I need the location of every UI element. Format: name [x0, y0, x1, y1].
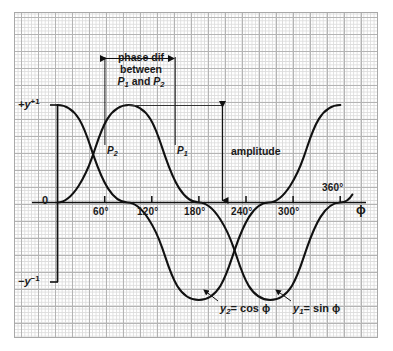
x-tick-label-300: 300°	[278, 206, 299, 217]
cosine-curve-label: y2= cos ϕ	[220, 302, 270, 317]
phase-dif-label-line2: between	[114, 64, 168, 76]
plot-overlay	[0, 0, 393, 351]
y-axis-negative-label: −y−1	[18, 275, 40, 287]
point-label-p2: P2	[107, 145, 118, 158]
y-negative-symbol: −y	[18, 275, 31, 287]
cos-expression: = cos ϕ	[231, 302, 271, 314]
point-label-p1: P1	[177, 145, 188, 158]
x-tick-label-240: 240°	[231, 206, 252, 217]
sine-curve-label: y1= sin ϕ	[293, 302, 340, 317]
y-positive-symbol: +y	[18, 98, 31, 110]
y-axis-positive-label: +y+1	[18, 98, 40, 110]
x-tick-label-180: 180°	[184, 206, 205, 217]
amplitude-label: amplitude	[231, 146, 281, 158]
x-tick-label-120: 120°	[137, 206, 158, 217]
phase-and-text: and	[129, 75, 154, 87]
x-tick-label-60: 60°	[93, 206, 109, 217]
figure-page: +y+1 0 −y−1 60° 120° 180° 240° 300° 360°…	[0, 0, 393, 351]
x-tick-label-360: 360°	[322, 182, 343, 193]
y-value-bottom: −1	[31, 274, 40, 283]
phase-p2-subscript: 2	[160, 80, 164, 89]
point-p1-symbol: P	[177, 145, 184, 156]
point-p2-symbol: P	[107, 145, 114, 156]
y-value-top: +1	[31, 97, 40, 106]
x-axis-label: ϕ	[356, 203, 366, 218]
phase-dif-label-line3: P1 and P2	[112, 76, 170, 90]
phase-p1-symbol: P	[118, 75, 125, 87]
point-p1-subscript: 1	[184, 149, 188, 158]
phase-dif-label-line1: phase dif	[116, 52, 166, 64]
point-p2-subscript: 2	[114, 149, 118, 158]
sin-expression: = sin ϕ	[304, 302, 341, 314]
origin-zero-label: 0	[42, 194, 48, 206]
